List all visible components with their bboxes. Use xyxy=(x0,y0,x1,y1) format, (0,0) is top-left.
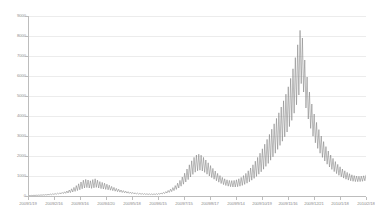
x-tick-label-12: 2010/1/18 xyxy=(331,202,348,207)
x-axis-ticks: 2009/1/192009/2/162009/3/162009/4/202009… xyxy=(0,197,372,219)
x-tick-mark-0 xyxy=(28,197,29,200)
x-tick-label-5: 2009/6/15 xyxy=(149,202,166,207)
x-tick-mark-6 xyxy=(184,197,185,200)
x-tick-label-7: 2009/8/17 xyxy=(201,202,218,207)
y-tick-label-2000: 2000 xyxy=(2,154,26,158)
y-axis-line xyxy=(28,16,29,197)
x-tick-label-11: 2009/12/21 xyxy=(304,202,323,207)
x-tick-mark-3 xyxy=(106,197,107,200)
x-tick-mark-11 xyxy=(314,197,315,200)
x-tick-label-10: 2009/11/16 xyxy=(278,202,297,207)
x-tick-mark-10 xyxy=(288,197,289,200)
x-tick-mark-8 xyxy=(236,197,237,200)
x-tick-mark-9 xyxy=(262,197,263,200)
y-tick-label-6000: 6000 xyxy=(2,74,26,78)
x-tick-label-2: 2009/3/16 xyxy=(71,202,88,207)
x-tick-label-8: 2009/9/14 xyxy=(227,202,244,207)
x-tick-mark-7 xyxy=(210,197,211,200)
x-tick-mark-1 xyxy=(54,197,55,200)
plot-area xyxy=(28,16,366,196)
y-tick-label-7000: 7000 xyxy=(2,54,26,58)
x-tick-mark-13 xyxy=(366,197,367,200)
y-tick-label-1000: 1000 xyxy=(2,174,26,178)
y-tick-label-4000: 4000 xyxy=(2,114,26,118)
y-tick-label-9000: 9000 xyxy=(2,14,26,18)
x-tick-label-3: 2009/4/20 xyxy=(97,202,114,207)
y-tick-label-8000: 8000 xyxy=(2,34,26,38)
x-tick-label-1: 2009/2/16 xyxy=(45,202,62,207)
x-tick-mark-5 xyxy=(158,197,159,200)
series-line-cases xyxy=(28,16,366,196)
x-tick-label-9: 2009/10/19 xyxy=(252,202,271,207)
y-tick-label-5000: 5000 xyxy=(2,94,26,98)
x-tick-mark-12 xyxy=(340,197,341,200)
y-tick-label-3000: 3000 xyxy=(2,134,26,138)
x-tick-mark-2 xyxy=(80,197,81,200)
x-tick-label-0: 2009/1/19 xyxy=(19,202,36,207)
x-tick-mark-4 xyxy=(132,197,133,200)
y-axis-ticks: 0100020003000400050006000700080009000 xyxy=(0,16,26,197)
x-tick-label-13: 2010/2/18 xyxy=(357,202,374,207)
x-tick-label-4: 2009/5/18 xyxy=(123,202,140,207)
x-tick-label-6: 2009/7/15 xyxy=(175,202,192,207)
